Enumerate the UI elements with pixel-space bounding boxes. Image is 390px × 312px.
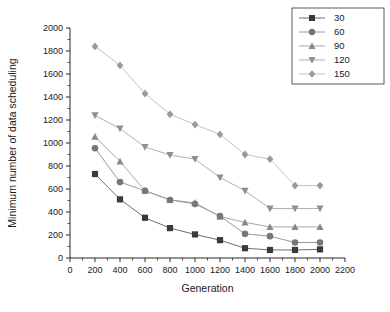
x-tick-label: 2000 [310,265,330,275]
marker-circle [167,197,174,204]
marker-square [242,245,248,251]
series-60 [92,145,324,246]
marker-circle [242,231,249,238]
series-90 [91,133,323,230]
series-120 [91,112,323,212]
marker-diamond [167,110,174,118]
x-tick-label: 2200 [335,265,355,275]
marker-diamond [317,182,324,190]
y-tick-label: 200 [48,230,63,240]
marker-diamond [92,43,99,51]
marker-circle [92,145,99,152]
chart-figure: 0200400600800100012001400160018002000220… [0,0,390,312]
x-tick-label: 0 [67,265,72,275]
y-tick-label: 800 [48,161,63,171]
y-tick-label: 1600 [43,69,63,79]
y-axis-title: Minimum number of data scheduling [6,58,18,227]
series-line [95,148,320,242]
x-tick-label: 1600 [260,265,280,275]
series-150 [92,43,324,190]
series-line [95,46,320,185]
marker-square [117,196,123,202]
y-tick-label: 1200 [43,115,63,125]
y-tick-label: 2000 [43,23,63,33]
marker-diamond [217,130,224,138]
legend-label-150: 150 [334,68,350,79]
marker-square [292,247,298,253]
marker-circle [117,179,124,186]
legend-label-60: 60 [334,26,345,37]
marker-triangle-down [191,156,198,163]
figure-caption [0,303,390,312]
marker-square [217,237,223,243]
legend: 306090120150 [292,8,384,84]
marker-circle [192,201,199,208]
marker-square [309,15,315,21]
x-tick-label: 1800 [285,265,305,275]
marker-square [267,247,273,253]
series-line [95,137,320,227]
marker-square [92,171,98,177]
x-axis-title: Generation [182,282,234,294]
x-tick-label: 1400 [235,265,255,275]
marker-circle [292,239,299,246]
legend-label-90: 90 [334,40,345,51]
legend-label-120: 120 [334,54,350,65]
x-tick-label: 1200 [210,265,230,275]
y-tick-label: 0 [58,253,63,263]
marker-square [167,225,173,231]
y-tick-label: 1400 [43,92,63,102]
marker-diamond [192,121,199,129]
x-tick-label: 600 [137,265,152,275]
marker-triangle-down [116,126,123,133]
x-tick-label: 200 [87,265,102,275]
marker-circle [267,233,274,240]
marker-triangle-down [216,174,223,181]
marker-circle [142,187,149,194]
x-tick-label: 800 [162,265,177,275]
y-tick-label: 1800 [43,46,63,56]
marker-circle [317,239,324,246]
x-tick-label: 400 [112,265,127,275]
marker-diamond [242,151,249,159]
legend-label-30: 30 [334,12,345,23]
marker-square [142,215,148,221]
y-tick-label: 600 [48,184,63,194]
y-tick-label: 400 [48,207,63,217]
marker-circle [217,213,224,220]
marker-triangle-up [91,133,98,140]
marker-square [192,231,198,237]
marker-circle [309,29,315,35]
marker-square [317,246,323,252]
marker-triangle-down [91,112,98,119]
x-tick-label: 1000 [185,265,205,275]
line-chart: 0200400600800100012001400160018002000220… [0,0,390,312]
marker-triangle-down [241,188,248,195]
y-tick-label: 1000 [43,138,63,148]
